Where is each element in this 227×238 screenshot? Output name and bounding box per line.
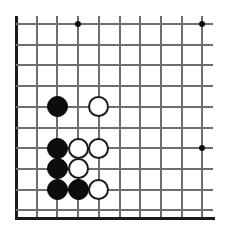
goban-grid[interactable]	[0, 0, 227, 238]
black-stone-c3-r9[interactable]	[47, 179, 68, 200]
grid-line-horizontal-1	[16, 23, 213, 25]
black-stone-c3-r5[interactable]	[47, 96, 68, 117]
grid-line-vertical-6	[119, 16, 121, 217]
hoshi-top-right-star-point	[199, 21, 205, 27]
board-edge-bottom	[15, 217, 215, 220]
white-stone-c5-r7[interactable]	[88, 138, 109, 159]
hoshi-top-left-star-point	[75, 21, 81, 27]
grid-line-horizontal-8	[16, 168, 213, 170]
black-stone-c3-r8[interactable]	[47, 158, 68, 179]
grid-line-vertical-10	[201, 16, 203, 217]
grid-line-vertical-8	[160, 16, 162, 217]
black-stone-c3-r7[interactable]	[47, 138, 68, 159]
white-stone-c5-r5[interactable]	[88, 96, 109, 117]
grid-line-horizontal-6	[16, 127, 213, 129]
go-board-diagram	[0, 0, 227, 238]
white-stone-c4-r7[interactable]	[68, 138, 89, 159]
grid-line-vertical-9	[181, 16, 183, 217]
hoshi-right-side-star-point	[199, 145, 205, 151]
white-stone-c4-r8[interactable]	[68, 158, 89, 179]
grid-line-horizontal-4	[16, 85, 213, 87]
grid-line-vertical-1	[15, 16, 18, 217]
black-stone-c4-r9[interactable]	[68, 179, 89, 200]
grid-line-horizontal-2	[16, 44, 213, 46]
grid-line-vertical-2	[36, 16, 38, 217]
white-stone-c5-r9[interactable]	[88, 179, 109, 200]
grid-line-horizontal-3	[16, 64, 213, 66]
grid-line-horizontal-7	[16, 147, 213, 149]
grid-line-horizontal-10	[16, 209, 213, 211]
grid-line-vertical-7	[139, 16, 141, 217]
grid-line-horizontal-9	[16, 189, 213, 191]
grid-line-horizontal-5	[16, 106, 213, 108]
